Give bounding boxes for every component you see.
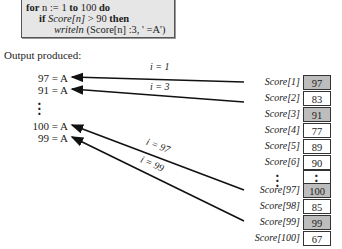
array-label: Score[99] — [240, 216, 300, 227]
array-label: Score[2] — [240, 92, 300, 103]
array-cell: 90 — [303, 155, 331, 170]
array-cell: 83 — [303, 91, 331, 106]
array-label: Score[97] — [240, 184, 300, 195]
arrow-label-i1: i = 1 — [150, 61, 170, 72]
array-cell: 85 — [303, 199, 331, 214]
arrow-i97 — [72, 125, 244, 190]
array-cell: 99 — [303, 215, 331, 230]
array-cell: 67 — [303, 231, 331, 246]
array-label: Score[3] — [240, 108, 300, 119]
array-label: Score[98] — [240, 200, 300, 211]
array-label: Score[5] — [240, 140, 300, 151]
array-label: Score[100] — [240, 232, 300, 243]
array-cell: 77 — [303, 123, 331, 138]
array-cell: 89 — [303, 139, 331, 154]
array-cell: 97 — [303, 75, 331, 90]
array-cell: 91 — [303, 107, 331, 122]
array-cell: 100 — [303, 183, 331, 198]
array-label: Score[6] — [240, 156, 300, 167]
array-label: Score[4] — [240, 124, 300, 135]
array-label: Score[1] — [240, 76, 300, 87]
arrow-label-i3: i = 3 — [150, 81, 170, 92]
